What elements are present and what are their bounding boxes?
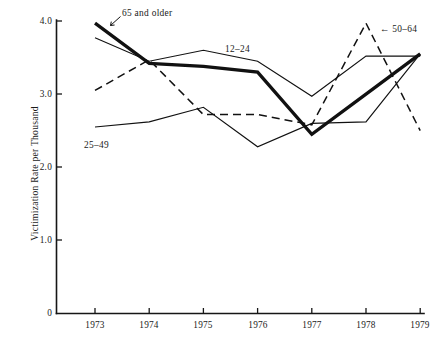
series-line-12-24 xyxy=(95,38,420,97)
x-tick-marks xyxy=(95,308,420,314)
series-line-65-and-older xyxy=(95,23,420,134)
y-axis-title: Victimization Rate per Thousand xyxy=(29,79,40,269)
series-label-50-64: ← 50–64 xyxy=(380,24,417,34)
series-line-25-49 xyxy=(95,54,420,147)
x-tick-label-1973: 1973 xyxy=(85,320,104,330)
x-tick-label-1979: 1979 xyxy=(410,320,429,330)
x-tick-label-1978: 1978 xyxy=(356,320,375,330)
line-chart-plot xyxy=(0,0,443,353)
series-label-25-49: 25–49 xyxy=(84,140,109,150)
figure-container: 4.0 3.0 2.0 1.0 0 1973 1974 1975 1976 19… xyxy=(0,0,443,353)
series-label-65-and-older: 65 and older xyxy=(122,8,172,18)
x-tick-label-1974: 1974 xyxy=(139,320,158,330)
pointer-arrow-65-and-older xyxy=(111,17,121,26)
annotation-pointers xyxy=(111,17,121,26)
x-tick-label-1976: 1976 xyxy=(248,320,267,330)
x-tick-label-1975: 1975 xyxy=(193,320,212,330)
axes-group xyxy=(57,20,425,314)
series-label-12-24: 12–24 xyxy=(225,44,250,54)
y-tick-label-0: 0 xyxy=(16,308,52,318)
y-tick-label-4: 4.0 xyxy=(16,16,52,26)
data-series-group xyxy=(95,23,420,147)
x-tick-label-1977: 1977 xyxy=(302,320,321,330)
y-tick-marks xyxy=(57,21,63,240)
